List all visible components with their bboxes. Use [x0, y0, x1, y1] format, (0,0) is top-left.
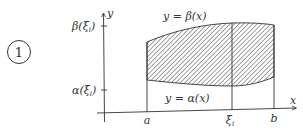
svg-text:α(ξi): α(ξi) [72, 84, 96, 98]
x-tick-a: a [144, 114, 151, 127]
hatched-region [147, 23, 274, 86]
y-tick-alpha: α(ξi) [72, 84, 107, 98]
y-axis-label: y [106, 7, 114, 20]
x-tick-b: b [270, 112, 277, 125]
y-axis: y [102, 7, 115, 122]
figure-number: 1 [15, 45, 23, 60]
upper-curve-label: y = β(x) [162, 10, 207, 23]
svg-text:β(ξi): β(ξi) [71, 20, 95, 34]
y-tick-beta: β(ξi) [71, 20, 107, 34]
region-diagram: 1 y β(ξi) α(ξi) x a ξi b y = β(x) y = α(… [0, 0, 303, 132]
x-axis-label: x [290, 94, 297, 107]
lower-curve-label: y = α(x) [164, 92, 210, 105]
x-tick-xi: ξi [226, 114, 234, 128]
figure-number-badge: 1 [8, 41, 31, 64]
